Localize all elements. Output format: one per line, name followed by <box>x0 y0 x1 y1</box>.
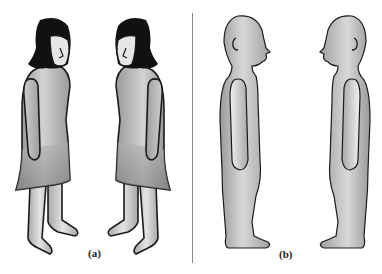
mannequin-right-arm <box>342 79 360 170</box>
mannequin-right-figure <box>320 16 370 248</box>
caption-a: (a) <box>88 247 101 259</box>
panel-divider <box>192 13 193 263</box>
woman-right-face <box>117 36 136 67</box>
woman-left-face <box>50 36 69 67</box>
mannequin-left-figure <box>220 16 270 248</box>
caption-b: (b) <box>279 248 292 260</box>
woman-right-figure <box>108 18 170 254</box>
mannequin-left-arm <box>230 79 248 170</box>
woman-right-back-leg <box>108 180 138 236</box>
woman-left-figure <box>16 18 78 254</box>
woman-left-back-leg <box>48 180 78 236</box>
figure-canvas <box>0 0 382 274</box>
